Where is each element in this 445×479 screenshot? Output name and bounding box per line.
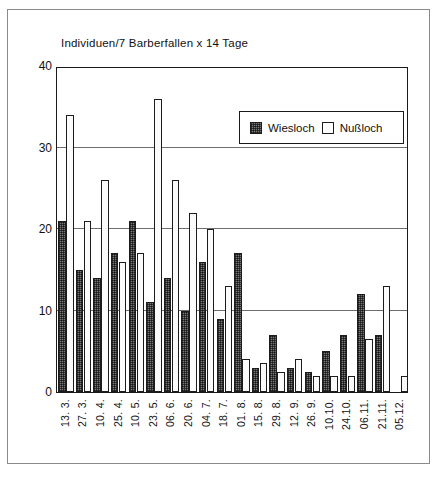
x-tick-label: 06.11.: [358, 399, 370, 429]
bar-wiesloch: [93, 278, 100, 392]
legend-label-wiesloch: Wiesloch: [268, 122, 315, 134]
bar-wiesloch: [199, 262, 206, 392]
x-tick-label: 29. 8.: [270, 399, 282, 427]
legend-item-nussloch: Nußloch: [322, 122, 383, 134]
bar-nuloch: [207, 229, 214, 392]
bar-nuloch: [119, 262, 126, 392]
x-tick-label: 20. 6.: [182, 399, 194, 427]
chart-title: Individuen/7 Barberfallen x 14 Tage: [61, 37, 248, 49]
x-tick-label: 12. 9.: [288, 399, 300, 427]
y-tick-label: 20: [12, 222, 52, 236]
bar-group: [110, 68, 128, 392]
bar-wiesloch: [164, 278, 171, 392]
bar-nuloch: [330, 376, 337, 392]
x-tick-label: 25. 4.: [112, 399, 124, 427]
figure-frame: Individuen/7 Barberfallen x 14 Tage 0102…: [7, 9, 430, 464]
x-tick-label: 05.12.: [393, 399, 405, 430]
bar-wiesloch: [234, 253, 241, 392]
legend-label-nussloch: Nußloch: [340, 122, 383, 134]
bar-nuloch: [277, 372, 284, 392]
bar-wiesloch: [217, 319, 224, 392]
bar-wiesloch: [111, 253, 118, 392]
y-axis: 010203040: [8, 10, 52, 402]
bar-wiesloch: [58, 221, 65, 392]
x-tick-label: 23. 5.: [147, 399, 159, 427]
bar-wiesloch: [129, 221, 136, 392]
bar-wiesloch: [146, 302, 153, 392]
chart-legend: Wiesloch Nußloch: [239, 111, 404, 144]
bar-nuloch: [225, 286, 232, 392]
bar-group: [215, 68, 233, 392]
bar-group: [57, 68, 75, 392]
x-tick-label: 18. 7.: [217, 399, 229, 427]
white-square-icon: [322, 122, 334, 134]
bar-nuloch: [295, 359, 302, 392]
x-tick-label: 15. 8.: [252, 399, 264, 427]
bar-group: [180, 68, 198, 392]
bar-nuloch: [101, 180, 108, 392]
bar-wiesloch: [375, 335, 382, 392]
bar-wiesloch: [357, 294, 364, 392]
bar-nuloch: [84, 221, 91, 392]
bar-nuloch: [260, 363, 267, 392]
bar-wiesloch: [305, 372, 312, 392]
bar-wiesloch: [322, 351, 329, 392]
bar-nuloch: [154, 99, 161, 392]
x-tick-label: 13. 3.: [59, 399, 71, 427]
bar-wiesloch: [287, 368, 294, 392]
bar-nuloch: [365, 339, 372, 392]
bar-group: [163, 68, 181, 392]
x-tick-label: 10. 4.: [94, 399, 106, 427]
bar-nuloch: [383, 286, 390, 392]
x-tick-label: 21.11.: [376, 399, 388, 429]
bar-wiesloch: [269, 335, 276, 392]
bar-group: [127, 68, 145, 392]
bar-nuloch: [348, 376, 355, 392]
bar-nuloch: [242, 359, 249, 392]
y-tick-label: 10: [12, 304, 52, 318]
x-tick-label: 06. 6.: [164, 399, 176, 427]
bar-group: [145, 68, 163, 392]
legend-item-wiesloch: Wiesloch: [250, 122, 315, 134]
bar-wiesloch: [181, 311, 188, 393]
bar-nuloch: [66, 115, 73, 392]
x-tick-label: 01. 8.: [235, 399, 247, 427]
x-tick-label: 26. 9.: [305, 399, 317, 427]
bar-nuloch: [313, 376, 320, 392]
bar-wiesloch: [76, 270, 83, 392]
bar-group: [92, 68, 110, 392]
x-tick-label: 27. 3.: [76, 399, 88, 427]
bar-nuloch: [401, 376, 408, 392]
x-tick-label: 10.10.: [323, 399, 335, 430]
x-axis-labels: 13. 3.27. 3.10. 4.25. 4.10. 5.23. 5.06. …: [56, 399, 408, 459]
y-tick-label: 30: [12, 141, 52, 155]
bar-group: [75, 68, 93, 392]
x-tick-label: 10. 5.: [129, 399, 141, 427]
bar-group: [198, 68, 216, 392]
bar-nuloch: [189, 213, 196, 392]
bar-wiesloch: [340, 335, 347, 392]
y-tick-label: 0: [12, 385, 52, 399]
x-tick-label: 04. 7.: [200, 399, 212, 427]
x-tick-label: 24.10.: [340, 399, 352, 430]
bar-nuloch: [172, 180, 179, 392]
bar-nuloch: [137, 253, 144, 392]
hatched-square-icon: [250, 122, 262, 134]
bar-wiesloch: [252, 368, 259, 392]
y-tick-label: 40: [12, 59, 52, 73]
